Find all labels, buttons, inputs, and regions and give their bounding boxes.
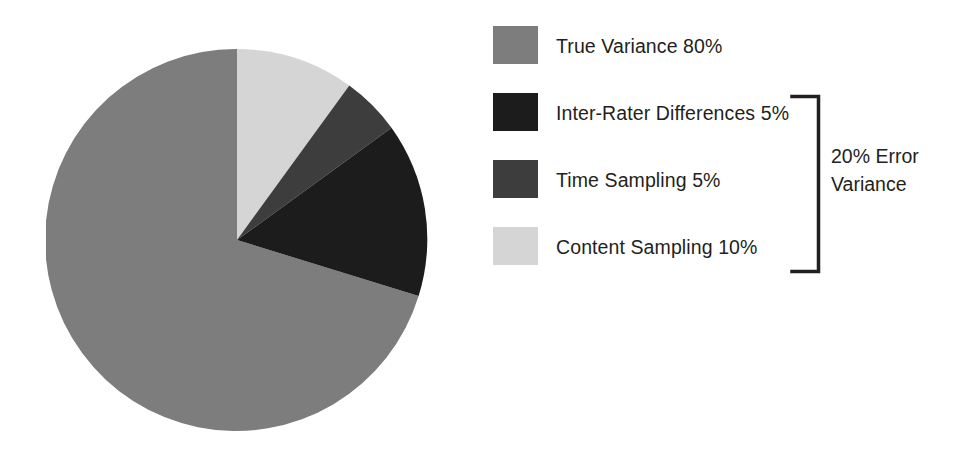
legend-label-inter-rater-differences: Inter-Rater Differences 5% (556, 101, 789, 125)
legend-swatch-content-sampling (493, 227, 538, 265)
error-variance-bracket (790, 94, 822, 274)
legend-swatch-true-variance (493, 26, 538, 64)
error-variance-label-line1: 20% Error (831, 142, 919, 170)
error-variance-label: 20% Error Variance (831, 142, 919, 198)
error-variance-label-line2: Variance (831, 170, 919, 198)
legend-label-time-sampling: Time Sampling 5% (556, 168, 721, 192)
legend-item-content-sampling[interactable]: Content Sampling 10% (493, 227, 793, 294)
legend-swatch-time-sampling (493, 160, 538, 198)
legend-label-true-variance: True Variance 80% (556, 34, 722, 58)
legend-swatch-inter-rater-differences (493, 93, 538, 131)
legend-label-content-sampling: Content Sampling 10% (556, 235, 757, 259)
pie-chart (46, 49, 428, 431)
legend-item-time-sampling[interactable]: Time Sampling 5% (493, 160, 793, 227)
legend-item-true-variance[interactable]: True Variance 80% (493, 26, 793, 93)
legend-item-inter-rater-differences[interactable]: Inter-Rater Differences 5% (493, 93, 793, 160)
chart-canvas: True Variance 80% Inter-Rater Difference… (0, 0, 955, 451)
legend: True Variance 80% Inter-Rater Difference… (493, 26, 793, 294)
